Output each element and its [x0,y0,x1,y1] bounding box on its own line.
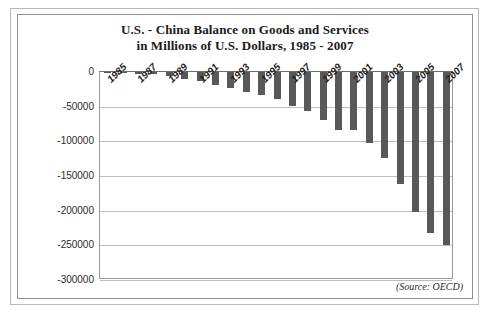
chart-title-line-1: U.S. - China Balance on Goods and Servic… [17,22,473,38]
y-tick-label: -200000 [22,205,94,216]
chart-title-line-2: in Millions of U.S. Dollars, 1985 - 2007 [17,38,473,54]
chart-figure: U.S. - China Balance on Goods and Servic… [0,0,489,314]
x-axis: 1985198719891991199319951997199920012003… [99,71,453,121]
y-axis: 0-50000-100000-150000-200000-250000-3000… [22,63,94,283]
y-tick-label: -250000 [22,239,94,250]
y-tick-label: -50000 [22,101,94,112]
chart-title: U.S. - China Balance on Goods and Servic… [17,22,473,54]
source-annotation: (Source: OECD) [396,281,463,292]
y-tick-label: -150000 [22,170,94,181]
y-tick-label: -100000 [22,135,94,146]
y-tick-label: 0 [22,66,94,77]
y-tick-label: -300000 [22,274,94,285]
